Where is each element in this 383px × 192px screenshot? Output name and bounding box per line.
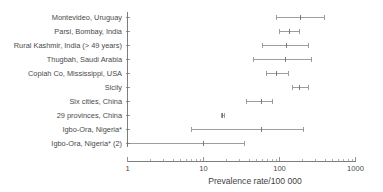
category-label: Igbo-Ora, Nigeria* (2)	[51, 139, 122, 148]
error-bar-row	[247, 99, 273, 105]
error-bar-row	[128, 141, 245, 147]
category-label: Rural Kashmir, India (> 49 years)	[14, 41, 122, 50]
error-bar-row	[263, 43, 309, 49]
x-tick-label: 1	[125, 164, 129, 173]
data-rows-group	[128, 15, 325, 147]
category-label: Six cities, China	[69, 97, 122, 106]
error-bar-row	[192, 127, 304, 133]
error-bar-row	[254, 57, 312, 63]
x-tick-label: 1000	[347, 164, 364, 173]
error-bar-row	[280, 29, 300, 35]
category-label: 29 provinces, China	[57, 111, 123, 120]
x-tick-label: 100	[273, 164, 286, 173]
error-bar-row	[293, 85, 309, 91]
forest-plot-chart: Montevideo, UruguayParsi, Bombay, IndiaR…	[0, 0, 383, 192]
category-label: Sicily	[105, 83, 123, 92]
x-tick-labels-group: 1101001000	[125, 164, 364, 173]
category-label: Copiah Co, Mississippi, USA	[28, 69, 122, 78]
x-tick-label: 10	[199, 164, 207, 173]
x-axis-title: Prevalence rate/100 000	[208, 176, 302, 186]
category-label: Montevideo, Uruguay	[52, 13, 123, 22]
category-label: Igbo-Ora, Nigeria*	[62, 125, 122, 134]
error-bar-row	[276, 15, 324, 21]
error-bar-row	[267, 71, 288, 77]
error-bar-row	[221, 113, 225, 119]
y-axis-group	[126, 12, 130, 147]
category-label: Parsi, Bombay, India	[54, 27, 123, 36]
category-labels-group: Montevideo, UruguayParsi, Bombay, IndiaR…	[14, 13, 123, 148]
x-axis-group	[128, 157, 357, 162]
category-label: Thugbah, Saudi Arabia	[47, 55, 123, 64]
